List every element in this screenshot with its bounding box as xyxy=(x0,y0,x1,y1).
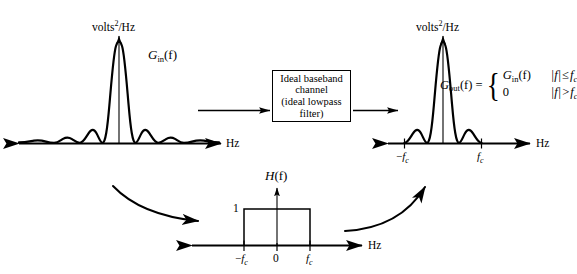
output-x-axis-label: Hz xyxy=(536,138,549,150)
filter-plot-group xyxy=(192,188,362,251)
equation-case1-value: Gin(f) xyxy=(503,68,551,83)
filter-tick-label-pos-fc: fc xyxy=(306,253,313,264)
filter-x-axis-label: Hz xyxy=(368,240,381,252)
equation-brace: { xyxy=(487,71,500,99)
channel-line-2: channel xyxy=(295,84,328,96)
filter-function-label: H(f) xyxy=(265,169,287,182)
equation-case2-value: 0 xyxy=(503,85,551,100)
input-curve-label: Gin(f) xyxy=(148,48,177,61)
filter-amplitude-label: 1 xyxy=(233,203,239,215)
equation-cases: Gin(f) |f|≤fc 0 |f|>fc xyxy=(503,68,577,102)
channel-line-3: (ideal lowpass xyxy=(281,96,341,108)
filter-tick-label-zero: 0 xyxy=(273,253,279,265)
gout-equation: Gout(f) = { Gin(f) |f|≤fc 0 |f|>fc xyxy=(440,68,577,102)
input-y-axis-label: volts2/Hz xyxy=(92,22,135,34)
output-tick-label-neg-fc: −fc xyxy=(396,151,409,162)
curved-arrow-to-filter xyxy=(113,186,198,221)
output-y-axis-label: volts2/Hz xyxy=(416,22,459,34)
equation-case-row-2: 0 |f|>fc xyxy=(503,85,577,102)
input-plot-group xyxy=(19,36,221,144)
equation-lhs: Gout(f) xyxy=(440,78,472,93)
equation-equals: = xyxy=(475,78,482,93)
equation-case2-condition: |f|>fc xyxy=(551,85,577,100)
equation-case-row-1: Gin(f) |f|≤fc xyxy=(503,68,577,85)
input-x-axis-label: Hz xyxy=(226,138,239,150)
output-tick-label-pos-fc: fc xyxy=(477,151,484,162)
curved-arrow-from-filter xyxy=(345,187,425,231)
ideal-baseband-channel-box: Ideal baseband channel (ideal lowpass fi… xyxy=(272,70,351,122)
equation-case1-condition: |f|≤fc xyxy=(551,68,577,83)
channel-line-1: Ideal baseband xyxy=(280,73,343,85)
channel-line-4: filter) xyxy=(300,108,324,120)
filter-tick-label-neg-fc: −fc xyxy=(235,253,248,264)
